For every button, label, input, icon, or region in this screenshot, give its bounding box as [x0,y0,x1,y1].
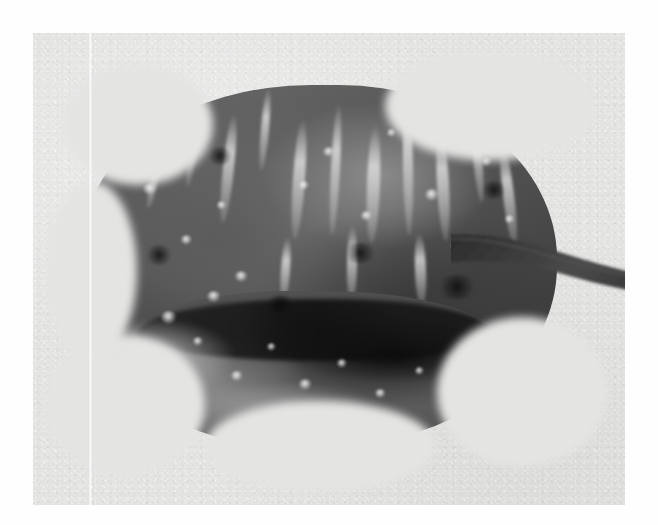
outline-notch-upper-right [385,51,595,161]
outline-notch-lower-right [437,317,607,467]
outline-notch-bottom [205,401,435,491]
figure-label [0,0,1,1]
outline-notch-upper-left [63,65,213,185]
figure-page [0,0,658,525]
outline-notch-lower-left [45,335,205,475]
outline-notch-left [47,181,137,361]
photographic-field [33,33,625,505]
figure-caption [0,0,1,1]
stalk-shape-icon [451,229,625,303]
specimen-stalk [451,229,625,303]
